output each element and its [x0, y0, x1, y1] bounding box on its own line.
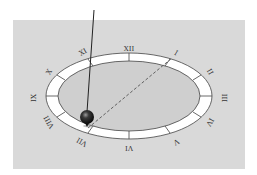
pendulum-bob [80, 110, 94, 124]
numeral-viii: VIII [42, 114, 56, 131]
numeral-xi: XI [78, 47, 89, 58]
numeral-ix: IX [30, 94, 38, 102]
numeral-iv: IV [204, 117, 215, 129]
numeral-i: I [173, 49, 180, 57]
numeral-ii: II [205, 68, 215, 77]
diagram-stage: XII I II III IV V VI VII VIII IX X XI [0, 0, 257, 175]
numeral-vii: VII [75, 136, 89, 149]
bob-shadow [83, 125, 95, 128]
numeral-x: X [45, 68, 54, 76]
inner-disc [58, 61, 200, 131]
pendulum-diagram: XII I II III IV V VI VII VIII IX X XI [0, 0, 257, 175]
numeral-xii: XII [124, 45, 135, 53]
numeral-v: V [171, 137, 181, 147]
numeral-iii: III [220, 94, 228, 103]
numeral-vi: VI [125, 144, 134, 152]
